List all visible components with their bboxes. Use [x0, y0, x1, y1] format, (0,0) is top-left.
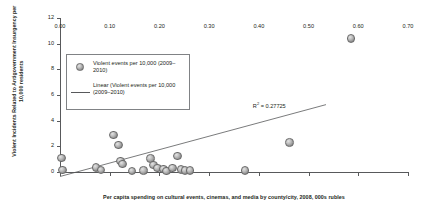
y-axis-tick-label: 8: [51, 67, 54, 73]
r-squared-value: = 0.27725: [261, 103, 286, 109]
r-squared-exponent: 2: [257, 101, 259, 106]
y-axis-tick-label: 4: [51, 118, 54, 124]
x-axis-tick-label: 0.30: [204, 24, 215, 30]
data-point: [109, 131, 117, 139]
data-point: [139, 166, 147, 174]
legend-label-trendline: Linear (Violent events per 10,000 (2009–…: [93, 81, 185, 97]
x-axis-tick-label: 0.10: [104, 24, 115, 30]
x-axis-title: Per capita spending on cultural events, …: [34, 194, 414, 200]
x-axis-tick: [358, 172, 359, 176]
y-axis-tick-label: 0: [51, 169, 54, 175]
data-point: [57, 154, 65, 162]
data-point: [285, 138, 293, 146]
x-axis-tick-label: 0.60: [353, 24, 364, 30]
y-axis-tick-label: 2: [51, 144, 54, 150]
y-axis-tick: [57, 18, 61, 19]
legend-marker-circle-icon: [76, 63, 84, 71]
y-axis-title-wrap: Violent Incidents Related to Antigovernm…: [0, 0, 30, 180]
data-point: [186, 166, 194, 174]
x-axis-line: [60, 172, 409, 173]
x-axis-tick: [110, 172, 111, 176]
y-axis-tick-label: 12: [48, 15, 54, 21]
r-squared-annotation: R2 = 0.27725: [253, 101, 286, 109]
legend-marker-circle-wrap: [67, 59, 93, 71]
data-point: [97, 166, 105, 174]
x-axis-tick: [408, 172, 409, 176]
y-axis-tick-label: 10: [48, 41, 54, 47]
x-axis-tick-label: 0.70: [403, 24, 414, 30]
data-point: [168, 164, 176, 172]
data-point: [58, 166, 66, 174]
x-axis-tick-label: 0.00: [55, 24, 66, 30]
x-axis-tick: [309, 172, 310, 176]
y-axis-tick: [57, 44, 61, 45]
scatter-chart: Violent Incidents Related to Antigovernm…: [0, 0, 425, 212]
legend-marker-line-icon: [71, 92, 90, 93]
x-axis-tick-label: 0.50: [303, 24, 314, 30]
y-axis-tick: [57, 121, 61, 122]
x-axis-tick: [209, 172, 210, 176]
data-point: [241, 166, 249, 174]
y-axis-tick: [57, 95, 61, 96]
y-axis-tick: [57, 69, 61, 70]
data-point: [114, 141, 122, 149]
legend-marker-line-wrap: [67, 81, 93, 93]
legend-entry-trendline: Linear (Violent events per 10,000 (2009–…: [67, 81, 191, 97]
x-axis-tick-label: 0.40: [253, 24, 264, 30]
y-axis-tick-label: 6: [51, 92, 54, 98]
chart-legend: Violent events per 10,000 (2009–2010) Li…: [66, 54, 190, 110]
x-axis-tick: [259, 172, 260, 176]
legend-entry-points: Violent events per 10,000 (2009–2010): [67, 59, 191, 75]
legend-label-points: Violent events per 10,000 (2009–2010): [93, 59, 185, 75]
y-axis-title: Violent Incidents Related to Antigovernm…: [11, 3, 25, 159]
data-point: [347, 34, 355, 42]
x-axis-tick-label: 0.20: [154, 24, 165, 30]
data-point: [173, 152, 181, 160]
data-point: [128, 167, 136, 175]
y-axis-tick: [57, 146, 61, 147]
